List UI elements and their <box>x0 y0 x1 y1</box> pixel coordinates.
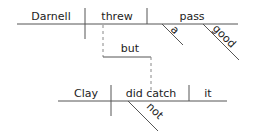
subject-1: Darnell <box>31 10 70 23</box>
subject-2: Clay <box>74 87 98 100</box>
conjunction-word: but <box>121 42 140 55</box>
modifier-good: good <box>210 22 239 51</box>
object-1: pass <box>179 10 204 23</box>
verb-1: threw <box>101 10 132 23</box>
modifier-a: a <box>168 23 182 37</box>
sentence-diagram: Darnell threw pass a good but Clay did c… <box>0 0 255 137</box>
verb-2: did catch <box>126 87 177 100</box>
clause-2: Clay did catch it not <box>58 85 227 131</box>
modifier-not: not <box>144 100 166 122</box>
conjunction: but <box>103 25 151 90</box>
object-2: it <box>204 87 212 100</box>
